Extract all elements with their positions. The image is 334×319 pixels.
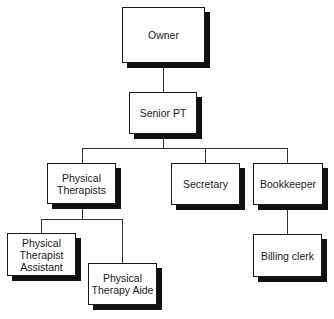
node-secretary: Secretary [171,163,240,205]
node-billing-clerk: Billing clerk [253,234,322,277]
node-senior-pt: Senior PT [129,92,197,134]
node-owner: Owner [122,7,205,63]
node-bookkeeper: Bookkeeper [253,163,323,205]
node-pt-aide: Physical Therapy Aide [88,263,157,305]
org-chart: Owner Senior PT Physical Therapists Secr… [0,0,334,319]
node-pt-assistant: Physical Therapist Assistant [7,233,76,276]
node-physical-therapists: Physical Therapists [47,163,116,204]
